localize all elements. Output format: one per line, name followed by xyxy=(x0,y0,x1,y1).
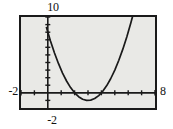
y-max-label: 10 xyxy=(43,1,63,13)
parabola-curve xyxy=(46,17,133,100)
plot-area xyxy=(21,17,155,108)
graph-figure: 10 -2 -2 8 xyxy=(0,0,173,129)
plot-svg xyxy=(21,17,155,108)
plot-frame xyxy=(19,15,157,110)
x-min-label: -2 xyxy=(1,85,18,97)
x-max-label: 8 xyxy=(160,85,173,97)
y-min-label: -2 xyxy=(40,114,64,126)
